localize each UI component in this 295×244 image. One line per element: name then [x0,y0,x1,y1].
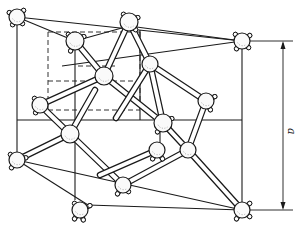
bond [188,150,242,210]
atom-sphere [234,202,250,218]
atom [115,177,131,196]
atom-sphere [154,114,172,132]
atom-sphere [142,56,158,72]
atom-sphere [9,152,25,168]
atom-sphere [72,202,88,218]
atom-sphere [61,125,79,143]
arrow-up-icon [281,41,286,49]
atom-sphere [115,177,131,193]
lattice-constant-label: a [285,128,295,135]
atom-sphere [149,142,165,158]
bond-fill [188,150,242,210]
arrow-down-icon [281,202,286,210]
atom [95,67,113,85]
atom [142,56,158,72]
stub-end [88,203,92,207]
diamond-crystal-structure-diagram: a [0,0,295,244]
atom [233,32,252,51]
atom-sphere [198,93,214,109]
lattice-dimension: a [250,41,295,210]
atom-sphere [95,67,113,85]
atom [234,201,252,221]
atom [180,142,196,158]
atom [120,12,140,32]
atom-sphere [9,9,25,25]
atom [72,201,92,222]
cube-edge [88,205,242,210]
atom-sphere [66,32,84,50]
cube-edge [129,26,242,41]
atom [149,142,165,161]
cube-edge [17,160,88,205]
atom [61,125,79,143]
atom-sphere [234,33,250,49]
atoms [7,8,252,222]
atom-sphere [32,97,48,113]
atom-sphere [180,142,196,158]
atom-sphere [120,13,138,31]
atom [7,8,26,27]
